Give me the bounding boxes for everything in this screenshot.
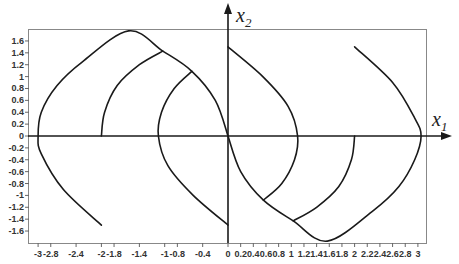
y-tick-label: -1.6 [8,226,24,236]
y-tick-label: 0.8 [11,83,24,93]
x2-axis-arrow-icon [224,3,232,14]
x-tick-label: 2.6 [386,249,399,259]
y-tick-label: -0.4 [8,155,24,165]
y-tick-label: -1 [16,190,24,200]
x-tick-label: -0.4 [195,249,211,259]
x-tick-label: -3 [34,249,42,259]
x-tick-label: -0.8 [170,249,186,259]
x-tick-label: 3 [415,249,420,259]
y-axis-ticks: 1.61.41.210.80.60.40.20-0.2-0.4-0.6-0.8-… [8,36,29,236]
y-tick-label: -0.8 [8,179,24,189]
y-tick-label: -0.2 [8,143,24,153]
x-tick-label: 0.4 [247,249,260,259]
x-tick-label: 0.8 [272,249,285,259]
x-tick-label: -1.8 [106,249,122,259]
y-tick-label: 0 [19,131,24,141]
x-tick-label: 2.4 [374,249,387,259]
x-tick-label: 1.4 [310,249,323,259]
x-tick-label: -2.4 [68,249,84,259]
x-tick-label: 2.2 [361,249,374,259]
x-tick-label: -2 [97,249,105,259]
right-outer-trajectory [228,47,421,241]
x-tick-label: 1.2 [298,249,311,259]
left-mid-trajectory [101,51,162,136]
x-tick-label: 0.2 [234,249,247,259]
y-tick-label: 1.2 [11,60,24,70]
x-tick-label: -1.4 [132,249,148,259]
y-tick-label: 1.6 [11,36,24,46]
x-tick-label: 2 [352,249,357,259]
x-tick-label: 1 [289,249,294,259]
x1-axis-title: x1 [431,108,447,134]
x-tick-label: -1 [161,249,169,259]
x-tick-label: 1.8 [336,249,349,259]
x-tick-label: -2.8 [43,249,59,259]
x2-axis-title: x2 [235,4,252,30]
y-tick-label: 0.2 [11,119,24,129]
y-tick-label: 1.4 [11,48,24,58]
x-axis-ticks: -3-2.8-2.4-2-1.8-1.4-1-0.8-0.400.20.40.6… [34,243,420,259]
x-tick-label: 0.6 [260,249,273,259]
right-mid-trajectory [293,136,354,221]
y-tick-label: 1 [19,72,24,82]
y-tick-label: 0.6 [11,95,24,105]
phase-plane-chart: 1.61.41.210.80.60.40.20-0.2-0.4-0.6-0.8-… [0,0,459,264]
right-inner-trajectory [228,47,298,200]
y-tick-label: -1.4 [8,214,24,224]
y-tick-label: -1.2 [8,202,24,212]
left-outer-trajectory [38,31,228,225]
x-tick-label: 2.8 [399,249,412,259]
y-tick-label: 0.4 [11,107,24,117]
x-tick-label: 0 [225,249,230,259]
y-tick-label: -0.6 [8,167,24,177]
x-tick-label: 1.6 [323,249,336,259]
left-inner-trajectory [158,71,228,225]
